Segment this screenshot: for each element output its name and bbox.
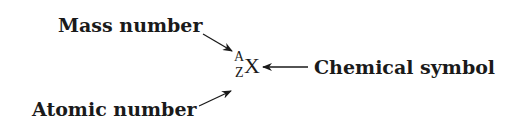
atomic-number-arrow-icon xyxy=(199,91,231,106)
arrows xyxy=(0,0,523,133)
mass-number-arrow-icon xyxy=(203,34,232,51)
